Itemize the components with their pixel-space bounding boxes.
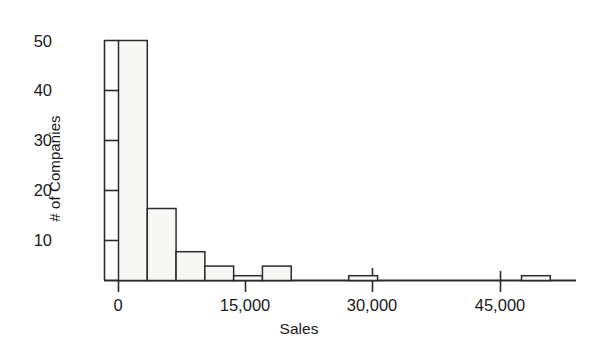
y-axis-ticks [105, 41, 119, 241]
histogram-bar [147, 209, 176, 281]
histogram-bars [119, 41, 551, 281]
histogram-bar [205, 266, 234, 280]
histogram-bar [119, 41, 148, 281]
histogram-bar [262, 266, 291, 280]
histogram-bar [522, 276, 551, 281]
plot-area [0, 0, 598, 356]
histogram-bar [234, 276, 263, 281]
histogram-bar [176, 252, 205, 281]
histogram-bar [349, 276, 378, 281]
histogram-figure: # of Companies 50 40 30 20 10 0 15,000 3… [0, 0, 598, 356]
